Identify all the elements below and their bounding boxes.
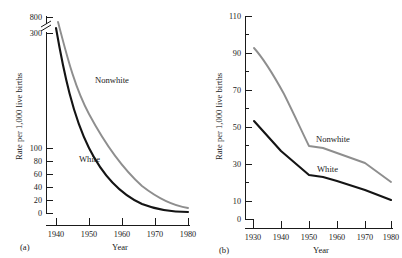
panel-a-ylabel-0: 0	[38, 209, 42, 218]
panel-a-xlabel-1960: 1960	[114, 230, 130, 239]
panel-a-ylabel-300: 300	[30, 29, 42, 38]
panel-a-xlabel-1970: 1970	[147, 230, 163, 239]
panel-b-xlabel-1970: 1970	[357, 233, 373, 242]
panel-b-caption: (b)	[219, 245, 229, 255]
panel-a-label-white: White	[79, 154, 100, 164]
panel-b-ylabel-30: 30	[233, 160, 241, 169]
chart-panel-a: Rate per 1,000 live births 800 300 100 8…	[0, 0, 201, 258]
panel-b-xlabel-1950: 1950	[301, 233, 317, 242]
panel-a-label-nonwhite: Nonwhite	[95, 75, 129, 85]
panel-b-ylabel-10: 10	[233, 197, 241, 206]
panel-a-xlabel-1980: 1980	[180, 230, 196, 239]
panel-a-ylabel-100: 100	[30, 144, 42, 153]
panel-b-origin-step	[245, 219, 253, 228]
panel-b-svg: Rate per 1,000 live births 110 90 70 50 …	[201, 0, 402, 258]
panel-b-ylabel-90: 90	[233, 49, 241, 58]
panel-b-ylabel-50: 50	[233, 123, 241, 132]
chart-panel-b: Rate per 1,000 live births 110 90 70 50 …	[201, 0, 402, 258]
figure-two-panel-mortality-charts: Rate per 1,000 live births 800 300 100 8…	[0, 0, 402, 258]
panel-b-ylabel-70: 70	[233, 86, 241, 95]
panel-a-y-axis-title: Rate per 1,000 live births	[14, 72, 24, 160]
panel-a-ylabel-800: 800	[30, 13, 42, 22]
panel-a-x-axis-title: Year	[112, 242, 128, 252]
panel-a-svg: Rate per 1,000 live births 800 300 100 8…	[0, 0, 201, 258]
panel-b-series-nonwhite	[254, 48, 391, 182]
panel-a-ylabel-80: 80	[34, 157, 42, 166]
panel-b-ylabel-0: 0	[237, 215, 241, 224]
panel-a-ylabel-60: 60	[34, 170, 42, 179]
panel-b-ylabel-110: 110	[229, 12, 241, 21]
panel-a-ylabel-40: 40	[34, 183, 42, 192]
panel-b-xlabel-1960: 1960	[329, 233, 345, 242]
panel-a-series-white	[56, 28, 188, 212]
panel-a-series-nonwhite	[58, 22, 188, 208]
panel-a-caption: (a)	[20, 242, 30, 252]
panel-b-xlabel-1940: 1940	[273, 233, 289, 242]
panel-b-label-nonwhite: Nonwhite	[316, 134, 350, 144]
panel-b-xlabel-1980: 1980	[383, 233, 399, 242]
panel-a-xlabel-1950: 1950	[81, 230, 97, 239]
panel-b-label-white: White	[317, 164, 338, 174]
panel-b-x-axis-title: Year	[313, 245, 329, 255]
panel-b-xlabel-1930: 1930	[245, 233, 261, 242]
panel-a-xlabel-1940: 1940	[48, 230, 64, 239]
panel-a-ylabel-20: 20	[34, 196, 42, 205]
panel-b-series-white	[254, 121, 391, 200]
panel-b-y-axis-title: Rate per 1,000 live births	[214, 72, 224, 160]
